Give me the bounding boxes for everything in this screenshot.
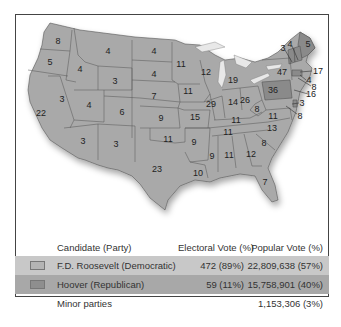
state-label-wi: 12 — [201, 67, 211, 77]
state-label-al: 11 — [224, 150, 233, 160]
state-label-sd: 4 — [151, 69, 156, 79]
state-label-id: 4 — [77, 64, 82, 74]
state-label-mn: 11 — [176, 59, 185, 69]
state-label-nd: 4 — [151, 46, 156, 56]
candidate-name: Hoover (Republican) — [57, 275, 144, 294]
state-label-co: 6 — [119, 107, 124, 117]
us-election-map — [0, 0, 341, 230]
state-label-ma: 17 — [313, 66, 323, 76]
state-label-la: 10 — [193, 168, 203, 178]
state-label-ms: 9 — [209, 151, 214, 161]
state-label-wa: 8 — [55, 36, 60, 46]
state-label-va: 11 — [268, 111, 277, 121]
state-label-ky: 11 — [231, 115, 240, 125]
state-label-mi: 19 — [228, 75, 238, 85]
results-legend: Candidate (Party) Electoral Vote (%) Pop… — [15, 238, 329, 313]
state-label-md: 8 — [297, 111, 302, 121]
state-label-ok: 11 — [163, 134, 172, 144]
state-label-ks: 9 — [158, 113, 163, 123]
democratic-swatch — [30, 261, 45, 270]
legend-row-hoover: Hoover (Republican) 59 (11%) 15,758,901 … — [15, 275, 329, 294]
state-label-ca: 22 — [36, 108, 46, 118]
legend-header-row: Candidate (Party) Electoral Vote (%) Pop… — [15, 238, 329, 256]
state-label-in: 14 — [228, 97, 238, 107]
state-label-nm: 3 — [113, 139, 118, 149]
state-label-nj: 16 — [306, 89, 316, 99]
state-label-tx: 23 — [152, 164, 162, 174]
state-label-az: 3 — [80, 136, 85, 146]
state-label-ny: 47 — [277, 67, 287, 77]
legend-row-roosevelt: F.D. Roosevelt (Democratic) 472 (89%) 22… — [15, 256, 329, 275]
popular-vote: 22,809,638 (57%) — [247, 256, 323, 275]
state-label-de: 3 — [299, 98, 304, 108]
candidate-name: Minor parties — [57, 294, 112, 313]
state-label-ar: 9 — [191, 137, 196, 147]
state-label-me: 5 — [305, 39, 310, 49]
electoral-vote: 59 (11%) — [206, 275, 244, 294]
popular-vote: 1,153,306 (3%) — [258, 294, 323, 313]
state-label-mt: 4 — [105, 46, 110, 56]
state-label-sc: 8 — [261, 138, 266, 148]
candidate-name: F.D. Roosevelt (Democratic) — [57, 256, 176, 275]
state-label-nv: 3 — [59, 94, 64, 104]
state-label-or: 5 — [47, 57, 52, 67]
state-label-ia: 11 — [183, 86, 192, 96]
state-label-oh: 26 — [240, 95, 250, 105]
legend-row-minor: Minor parties 1,153,306 (3%) — [15, 294, 329, 313]
state-label-nh: 4 — [287, 39, 292, 49]
header-electoral: Electoral Vote (%) — [178, 238, 254, 257]
state-label-wv: 8 — [254, 104, 259, 114]
popular-vote: 15,758,901 (40%) — [247, 275, 323, 294]
state-label-tn: 11 — [223, 127, 232, 137]
state-label-nc: 13 — [267, 123, 277, 133]
header-popular: Popular Vote (%) — [251, 238, 323, 257]
state-label-fl: 7 — [262, 177, 267, 187]
state-label-ne: 7 — [151, 91, 156, 101]
state-label-ga: 12 — [246, 149, 256, 159]
header-candidate: Candidate (Party) — [57, 238, 131, 257]
state-label-mo: 15 — [190, 112, 200, 122]
republican-swatch — [30, 280, 45, 289]
state-label-vt: 3 — [280, 43, 285, 53]
state-label-pa: 36 — [268, 85, 278, 95]
electoral-vote: 472 (89%) — [200, 256, 244, 275]
state-label-wy: 3 — [112, 76, 117, 86]
state-label-ut: 4 — [86, 100, 91, 110]
state-label-il: 29 — [206, 99, 216, 109]
